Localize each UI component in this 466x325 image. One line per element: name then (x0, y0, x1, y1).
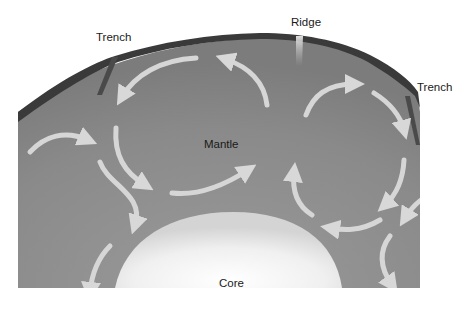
mantle-convection-diagram: Trench Ridge Trench Mantle Core (0, 0, 466, 325)
ridge-plume (296, 36, 303, 66)
core-label: Core (219, 277, 244, 289)
ridge-label: Ridge (291, 16, 321, 28)
trench-left-label: Trench (96, 31, 131, 43)
mantle-label: Mantle (204, 138, 239, 150)
trench-right-label: Trench (417, 81, 452, 93)
